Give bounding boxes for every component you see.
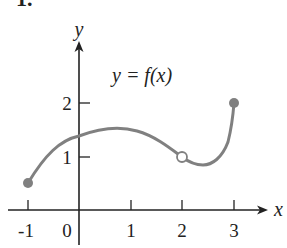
function-curve <box>28 103 234 183</box>
x-tick-label: -1 <box>18 220 34 241</box>
function-graph: -1 0 1 2 3 1 2 x y y = f(x) <box>0 0 287 248</box>
x-tick-label: 1 <box>126 220 136 241</box>
x-ticks <box>28 200 234 210</box>
y-tick-label: 1 <box>62 147 72 168</box>
open-circle-marker <box>177 152 187 162</box>
y-axis-label: y <box>73 18 84 41</box>
y-ticks <box>79 103 90 157</box>
x-tick-label: 3 <box>229 220 239 241</box>
y-tick-label: 2 <box>62 93 72 114</box>
x-tick-label: 2 <box>177 220 187 241</box>
x-tick-label: 0 <box>62 220 72 241</box>
x-axis-label: x <box>273 198 283 220</box>
closed-endpoint-marker <box>229 98 239 108</box>
function-label: y = f(x) <box>110 64 172 87</box>
closed-endpoint-marker <box>23 178 33 188</box>
